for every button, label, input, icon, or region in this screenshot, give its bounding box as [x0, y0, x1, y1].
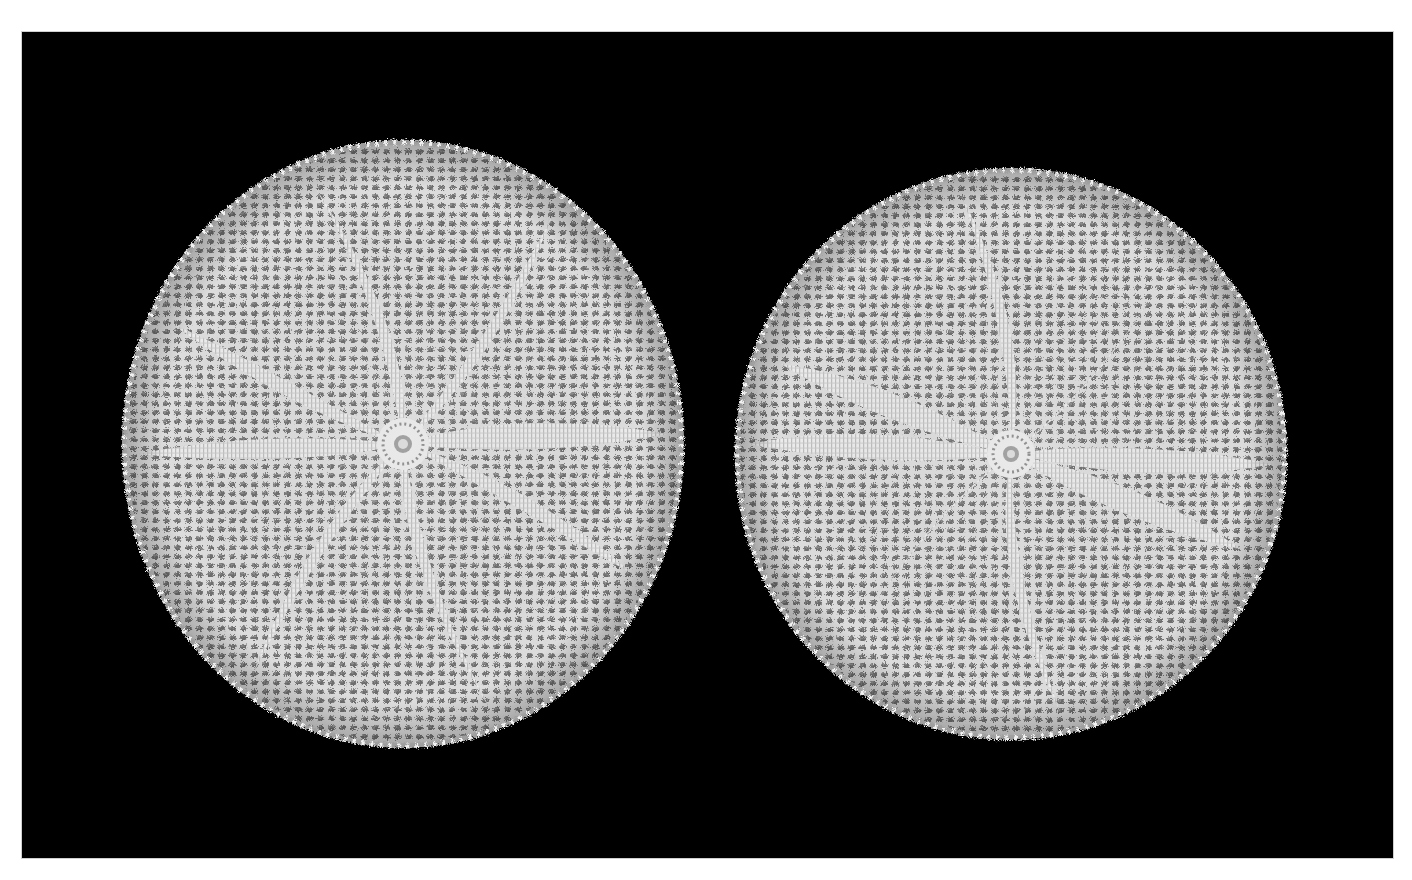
- right-doily: [735, 168, 1287, 740]
- doily-photo: [22, 32, 1393, 858]
- cropped-caption: [30, 0, 630, 6]
- left-doily: [122, 140, 684, 748]
- photo-frame: [22, 32, 1393, 858]
